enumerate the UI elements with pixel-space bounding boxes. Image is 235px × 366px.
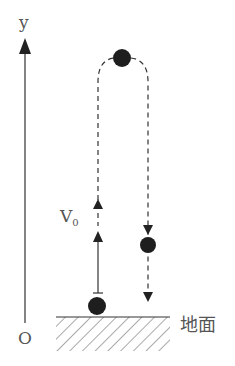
path-down-arrow-icon bbox=[143, 225, 153, 235]
ball-falling bbox=[140, 237, 156, 253]
v0-arrow bbox=[93, 226, 103, 296]
velocity-label: V0 bbox=[60, 208, 79, 228]
velocity-symbol: V bbox=[60, 206, 72, 226]
y-axis-label: y bbox=[19, 14, 29, 31]
diagram-canvas bbox=[0, 0, 235, 366]
velocity-subscript: 0 bbox=[72, 217, 78, 228]
trajectory-path bbox=[98, 58, 148, 292]
y-axis bbox=[19, 38, 31, 323]
y-axis-arrow-icon bbox=[19, 38, 31, 54]
path-up-arrow-icon bbox=[93, 199, 103, 209]
ball-ground bbox=[88, 297, 106, 315]
v0-arrow-head-icon bbox=[93, 231, 103, 242]
ground-label: 地面 bbox=[180, 316, 216, 334]
path-down-lower-arrow-icon bbox=[143, 292, 153, 302]
ground bbox=[56, 317, 170, 351]
path-down bbox=[131, 58, 148, 292]
ball-top bbox=[113, 49, 131, 67]
origin-label: O bbox=[18, 330, 32, 347]
path-up bbox=[98, 58, 114, 290]
